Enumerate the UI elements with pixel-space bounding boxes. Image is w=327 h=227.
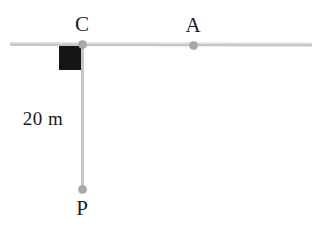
- horizontal-track-highlight: [10, 43, 312, 44]
- node-point-c: [79, 41, 87, 49]
- horizontal-track-line: [10, 45, 312, 46]
- node-point-p: [79, 186, 87, 194]
- label-point-c: C: [75, 14, 89, 35]
- label-length-20m: 20 m: [23, 109, 64, 128]
- diagram-canvas: C A P 20 m: [0, 0, 327, 227]
- block-mass: [59, 46, 81, 70]
- node-point-a: [190, 42, 198, 50]
- label-point-p: P: [76, 198, 88, 219]
- label-point-a: A: [185, 15, 200, 36]
